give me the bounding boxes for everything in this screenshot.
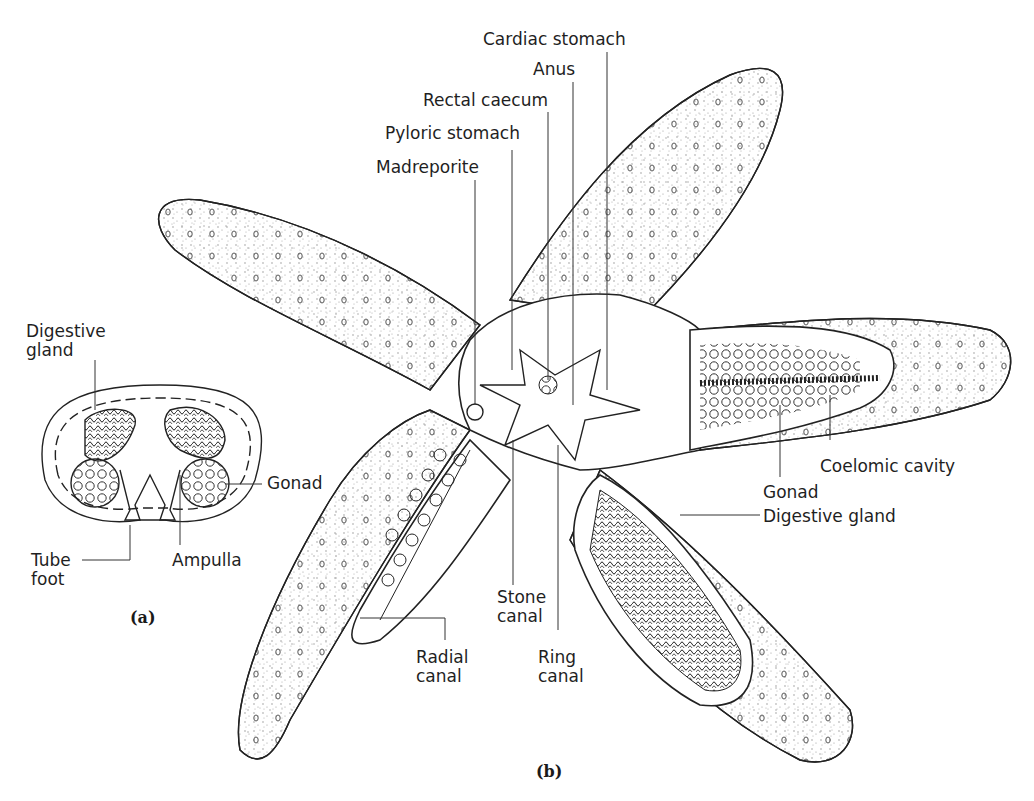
label-gonad-b: Gonad xyxy=(763,483,819,502)
label-tube-foot: Tube foot xyxy=(31,551,71,589)
label-anus: Anus xyxy=(533,60,575,79)
label-rectal-caecum: Rectal caecum xyxy=(423,91,548,110)
label-digestive-gland-a: Digestive gland xyxy=(26,322,106,360)
label-pyloric-stomach: Pyloric stomach xyxy=(385,124,520,143)
label-gonad-a: Gonad xyxy=(267,474,323,493)
panel-label-b: (b) xyxy=(536,762,562,781)
label-cardiac-stomach: Cardiac stomach xyxy=(483,30,626,49)
label-ampulla: Ampulla xyxy=(172,551,242,570)
label-radial-canal: Radial canal xyxy=(416,648,469,686)
label-ring-canal: Ring canal xyxy=(538,648,584,686)
label-coelomic-cavity: Coelomic cavity xyxy=(820,457,955,476)
label-madreporite: Madreporite xyxy=(376,158,479,177)
panel-label-a: (a) xyxy=(130,608,156,627)
label-digestive-gland-b: Digestive gland xyxy=(763,507,896,526)
cross-section-arm xyxy=(42,385,262,522)
sea-star-anatomy-illustration xyxy=(0,0,1034,801)
label-stone-canal: Stone canal xyxy=(497,588,546,626)
